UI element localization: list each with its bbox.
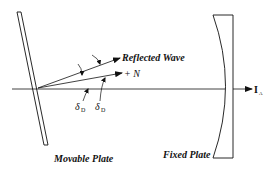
- axis-label: I A: [254, 84, 263, 96]
- reflected-wave-label: Reflected Wave: [121, 52, 185, 63]
- delta-label-1: δ D: [75, 101, 86, 113]
- delta-symbol: δ: [95, 101, 100, 112]
- diagram-canvas: Reflected Wave + N δ D δ D I A Movable P…: [0, 0, 274, 173]
- delta-symbol: δ: [75, 101, 80, 112]
- reflected-wave-ray: [38, 58, 120, 88]
- movable-plate-label: Movable Plate: [53, 153, 114, 164]
- delta-label-2: δ D: [95, 101, 106, 113]
- axis-symbol: I: [254, 84, 258, 95]
- fixed-plate: [213, 15, 233, 158]
- normal-ray: [38, 73, 122, 88]
- movable-plate: [17, 12, 48, 145]
- axis-subscript: A: [259, 91, 263, 96]
- delta-subscript: D: [101, 107, 106, 113]
- angle-markers: [78, 55, 105, 101]
- delta-subscript: D: [81, 107, 86, 113]
- normal-label: + N: [124, 68, 141, 79]
- fixed-plate-label: Fixed Plate: [162, 149, 211, 160]
